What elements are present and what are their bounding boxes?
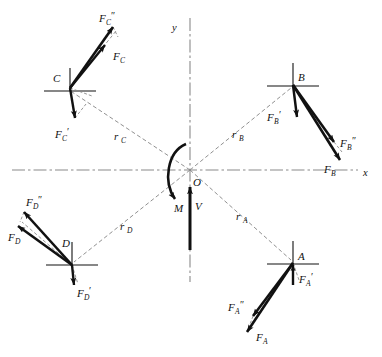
radius-label-C-base: r <box>114 130 119 142</box>
force-label-B-base: F <box>323 163 331 175</box>
force-label-C-prime-mark: ′ <box>67 126 69 137</box>
radius-label-D-subscript: D <box>126 226 133 235</box>
force-label-A-subscript: A <box>262 337 268 346</box>
radius-label-A-base: r <box>236 210 241 222</box>
force-label-A-prime-base: F <box>298 273 306 285</box>
force-label-A-base: F <box>255 331 263 343</box>
force-label-C-base: F <box>112 50 120 62</box>
force-label-D-double-prime-base: F <box>25 196 33 208</box>
y-axis-label: y <box>171 22 177 33</box>
point-label-A: A <box>297 250 305 262</box>
point-label-D: D <box>61 237 70 249</box>
force-diagram-figure: y x O M V C B D A r C r B r D r A F C <box>0 0 382 357</box>
radius-label-D-base: r <box>120 220 125 232</box>
radius-label-B-subscript: B <box>239 134 244 143</box>
radius-label-B-base: r <box>232 128 237 140</box>
x-axis-label: x <box>362 167 368 178</box>
diagram-canvas: y x O M V C B D A r C r B r D r A F C <box>0 0 382 357</box>
force-label-D-double-prime-mark: ″ <box>38 194 42 205</box>
force-label-B-prime-mark: ′ <box>279 109 281 120</box>
force-label-C-prime-base: F <box>54 128 62 140</box>
force-label-A-double-prime-base: F <box>227 301 235 313</box>
force-label-B-double-prime-base: F <box>339 137 347 149</box>
force-label-D-prime-base: F <box>76 287 84 299</box>
origin-label: O <box>193 176 201 188</box>
force-label-B-double-prime-mark: ″ <box>352 135 356 146</box>
force-label-B-prime-base: F <box>266 111 274 123</box>
force-label-C-double-prime-mark: ″ <box>111 10 115 21</box>
point-label-C: C <box>53 72 61 84</box>
force-label-A-prime-mark: ′ <box>311 271 313 282</box>
force-label-D-base: F <box>7 231 15 243</box>
force-label-B-subscript: B <box>331 169 336 178</box>
radius-label-A-subscript: A <box>242 216 248 225</box>
force-label-C-double-prime-base: F <box>98 12 106 24</box>
force-label-D-prime-mark: ′ <box>89 285 91 296</box>
moment-label: M <box>173 202 184 214</box>
point-label-B: B <box>298 71 305 83</box>
force-label-D-subscript: D <box>14 237 21 246</box>
force-label-A-double-prime-mark: ″ <box>240 299 244 310</box>
figure-background <box>0 0 382 357</box>
